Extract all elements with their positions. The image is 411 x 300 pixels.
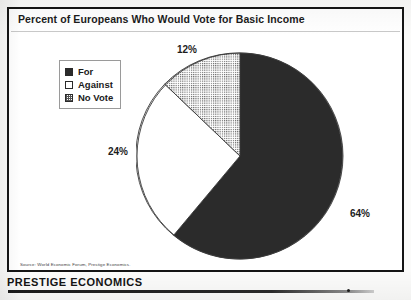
- slice-label-against: 24%: [108, 146, 128, 157]
- footer: PRESTIGE ECONOMICS: [7, 276, 404, 296]
- slice-label-no-vote: 12%: [177, 44, 197, 55]
- chart-legend: For Against No Vote: [59, 60, 121, 109]
- pie-svg: [136, 52, 344, 260]
- brand-wordmark: PRESTIGE ECONOMICS: [7, 276, 143, 288]
- legend-item-against: Against: [65, 78, 113, 91]
- brand-dot-icon: [347, 289, 350, 292]
- legend-label-for: For: [78, 66, 93, 77]
- brand-underline: [8, 290, 374, 293]
- pie-chart: [136, 52, 344, 260]
- legend-item-for: For: [65, 65, 113, 78]
- legend-swatch-for-icon: [65, 68, 73, 76]
- legend-label-against: Against: [78, 79, 113, 90]
- legend-item-no-vote: No Vote: [65, 91, 113, 104]
- slice-label-for: 64%: [350, 208, 370, 219]
- plot-area: 12% 24% 64% For Against No Vote: [9, 32, 402, 270]
- legend-swatch-against-icon: [65, 81, 73, 89]
- chart-title: Percent of Europeans Who Would Vote for …: [18, 13, 305, 25]
- legend-label-no-vote: No Vote: [78, 92, 113, 103]
- legend-swatch-no-vote-icon: [65, 94, 73, 102]
- chart-frame: Percent of Europeans Who Would Vote for …: [7, 7, 404, 272]
- source-note: Source: World Economic Forum, Prestige E…: [20, 262, 130, 267]
